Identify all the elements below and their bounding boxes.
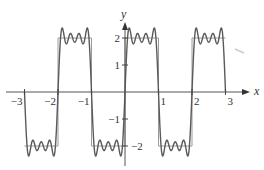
y-axis-label: y — [120, 7, 127, 21]
x-axis-label: x — [253, 84, 260, 98]
x-axis-arrow-icon — [242, 89, 250, 95]
x-tick-label: 3 — [228, 95, 234, 107]
y-tick-label: −1 — [108, 113, 120, 125]
x-tick-label: −3 — [11, 95, 23, 107]
x-tick-label: 1 — [161, 95, 167, 107]
y-tick-label: 1 — [115, 59, 121, 71]
x-tick-label: −2 — [44, 95, 56, 107]
y-tick-label: −2 — [131, 140, 143, 152]
y-axis-arrow-icon — [122, 22, 128, 30]
x-tick-label: −1 — [78, 95, 90, 107]
y-tick-label: 2 — [115, 32, 121, 44]
fourier-square-wave-chart: x y −3−2−1123 21−1−2 — [0, 0, 264, 170]
x-tick-label: 2 — [194, 95, 200, 107]
decorative-artifact-stroke — [235, 49, 244, 53]
